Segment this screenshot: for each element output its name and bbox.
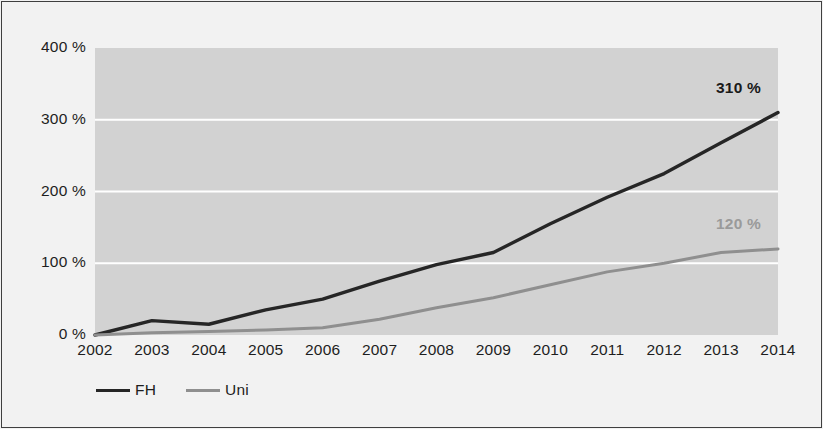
x-tick-label-2004: 2004 (182, 341, 236, 359)
legend-line-swatch-fh (96, 389, 130, 392)
chart-figure: 0 %100 %200 %300 %400 % 2002200320042005… (0, 0, 823, 429)
x-tick-label-2003: 2003 (125, 341, 179, 359)
legend-item-uni[interactable]: Uni (186, 381, 249, 399)
legend-item-fh[interactable]: FH (96, 381, 156, 399)
y-tick-label-300: 300 % (41, 110, 86, 128)
x-tick-label-2013: 2013 (694, 341, 748, 359)
legend-line-swatch-uni (186, 389, 220, 392)
chart-legend: FH Uni (96, 381, 279, 399)
x-tick-label-2008: 2008 (410, 341, 464, 359)
x-tick-label-2005: 2005 (239, 341, 293, 359)
y-tick-label-100: 100 % (41, 253, 86, 271)
x-tick-label-2009: 2009 (466, 341, 520, 359)
x-tick-label-2012: 2012 (637, 341, 691, 359)
data-label-uni: 120 % (716, 215, 761, 233)
line-chart-canvas (0, 0, 823, 429)
data-label-fh: 310 % (716, 79, 761, 97)
x-tick-label-2011: 2011 (580, 341, 634, 359)
legend-label-uni: Uni (225, 381, 249, 399)
x-tick-label-2010: 2010 (523, 341, 577, 359)
y-tick-label-200: 200 % (41, 182, 86, 200)
x-tick-label-2014: 2014 (751, 341, 805, 359)
x-tick-label-2002: 2002 (68, 341, 122, 359)
x-tick-label-2007: 2007 (353, 341, 407, 359)
legend-label-fh: FH (135, 381, 156, 399)
y-tick-label-400: 400 % (41, 38, 86, 56)
x-tick-label-2006: 2006 (296, 341, 350, 359)
